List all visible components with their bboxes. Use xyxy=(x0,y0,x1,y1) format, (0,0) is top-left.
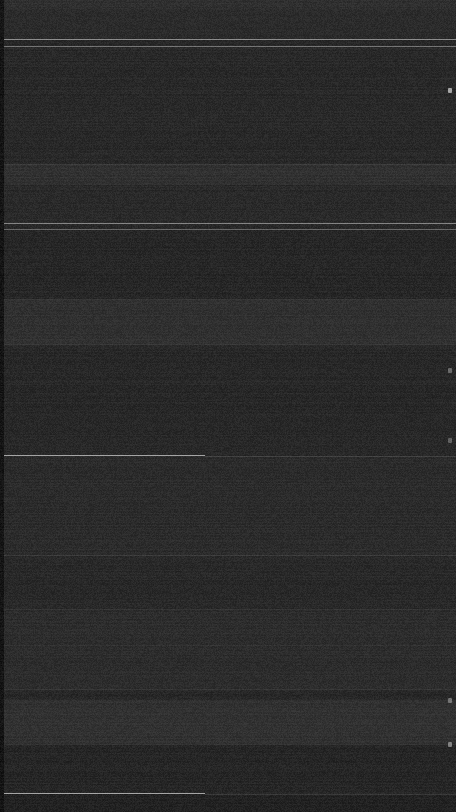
divider-row-1 xyxy=(4,164,456,165)
edge-indicator-3[interactable] xyxy=(448,438,452,443)
content-band-7 xyxy=(4,456,456,555)
content-band-9 xyxy=(4,610,456,690)
status-bar xyxy=(0,0,456,9)
divider-section-main xyxy=(0,455,205,456)
left-gutter xyxy=(0,0,4,812)
content-band-6 xyxy=(4,345,456,455)
content-band-3 xyxy=(4,185,456,223)
divider-row-7 xyxy=(4,609,456,610)
divider-row-10 xyxy=(4,744,456,745)
content-band-8 xyxy=(4,556,456,610)
divider-row-3 xyxy=(0,229,456,230)
edge-indicator-5[interactable] xyxy=(448,742,452,747)
content-band-11 xyxy=(4,745,456,793)
edge-indicator-1[interactable] xyxy=(448,88,452,93)
content-band-2 xyxy=(4,165,456,185)
divider-header-bottom xyxy=(0,46,456,47)
content-band-10 xyxy=(4,700,456,745)
divider-header-top xyxy=(0,39,456,40)
divider-row-6 xyxy=(4,555,456,556)
divider-row-9 xyxy=(4,689,456,690)
content-band-1 xyxy=(4,47,456,165)
divider-row-4 xyxy=(4,299,456,300)
divider-footer-main xyxy=(0,793,205,794)
content-band-12 xyxy=(4,794,456,812)
divider-footer-tail xyxy=(205,794,456,795)
divider-row-5 xyxy=(4,344,456,345)
divider-row-2 xyxy=(0,223,456,224)
edge-indicator-2[interactable] xyxy=(448,368,452,373)
divider-row-8 xyxy=(4,645,456,646)
divider-section-tail xyxy=(205,456,456,457)
content-band-5 xyxy=(4,300,456,345)
edge-indicator-4[interactable] xyxy=(448,698,452,703)
content-band-4 xyxy=(4,230,456,300)
mobile-screen: Screenshot is near-black and heavily noi… xyxy=(0,0,456,812)
header-band xyxy=(4,9,456,39)
